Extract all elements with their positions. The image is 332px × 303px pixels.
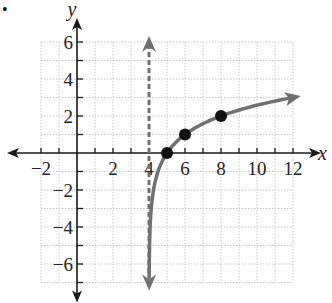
x-tick-label: 10: [248, 158, 267, 179]
data-point: [215, 110, 227, 122]
x-tick-label: 2: [108, 158, 118, 179]
data-point: [161, 147, 173, 159]
y-tick-label: 2: [64, 106, 74, 127]
bullet-marker: •: [2, 1, 8, 18]
asymptote-up-arrow-icon: [142, 36, 156, 52]
x-tick-label: 12: [284, 158, 303, 179]
y-tick-label: −6: [53, 254, 73, 275]
chart-canvas: −224681012642−2−4−6 • x y: [0, 0, 332, 303]
x-tick-label: 6: [180, 158, 190, 179]
x-tick-label: −2: [31, 158, 51, 179]
y-tick-label: −4: [53, 217, 74, 238]
x-axis-label: x: [317, 142, 327, 164]
data-point: [179, 129, 191, 141]
y-tick-label: −2: [53, 180, 73, 201]
x-tick-label: 8: [216, 158, 226, 179]
y-tick-label: 4: [64, 69, 74, 90]
y-axis-label: y: [66, 0, 77, 21]
curve-path: [149, 98, 293, 279]
y-tick-label: 6: [64, 32, 74, 53]
